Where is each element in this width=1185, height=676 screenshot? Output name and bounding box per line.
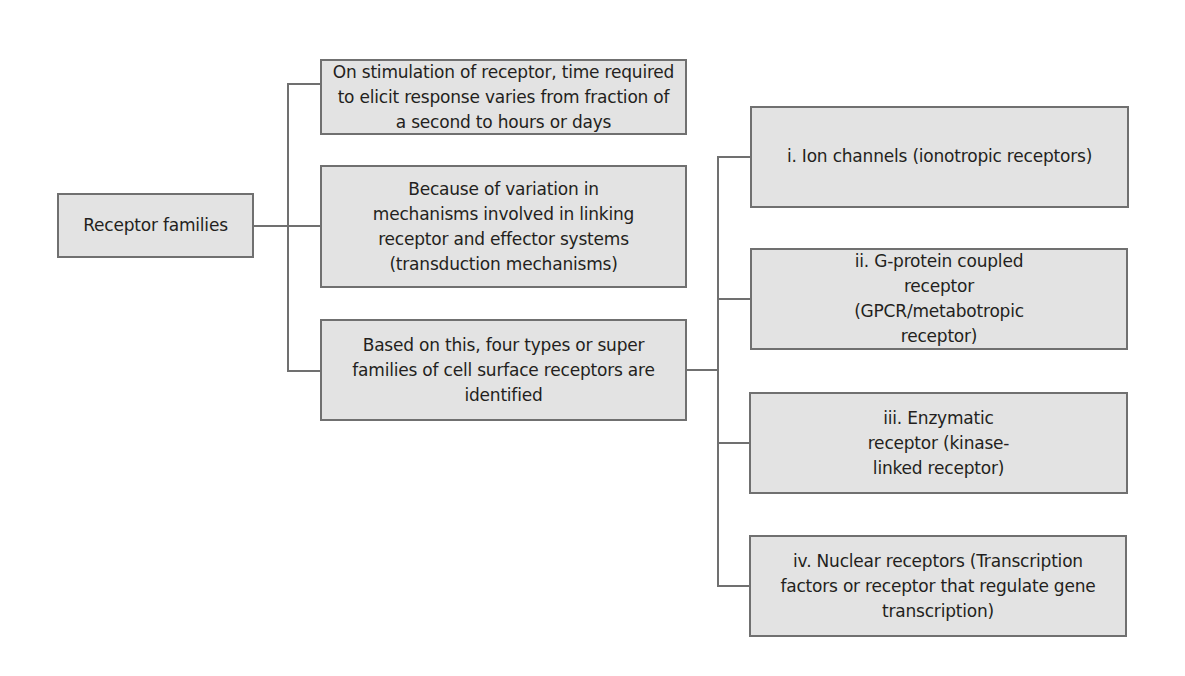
node-timing: On stimulation of receptor, time require… <box>320 59 687 135</box>
connector-left-trunk <box>287 83 289 372</box>
root-node-receptor-families: Receptor families <box>57 193 254 258</box>
connector-right-trunk <box>717 156 719 587</box>
node-timing-label: On stimulation of receptor, time require… <box>330 60 677 135</box>
node-enzymatic-label: iii. Enzymatic receptor (kinase-linked r… <box>851 406 1026 481</box>
connector-to-types <box>287 370 321 372</box>
node-gpcr-label: ii. G-protein coupled receptor (GPCR/met… <box>822 249 1056 349</box>
node-ion-channels: i. Ion channels (ionotropic receptors) <box>750 106 1129 208</box>
root-node-label: Receptor families <box>83 213 228 238</box>
node-types-label: Based on this, four types or super famil… <box>346 333 661 408</box>
node-mechanisms: Because of variation in mechanisms invol… <box>320 165 687 288</box>
node-gpcr: ii. G-protein coupled receptor (GPCR/met… <box>750 248 1128 350</box>
node-nuclear-label: iv. Nuclear receptors (Transcription fac… <box>779 549 1097 624</box>
connector-types-to-right-trunk <box>685 369 719 371</box>
node-mechanisms-label: Because of variation in mechanisms invol… <box>362 177 645 277</box>
connector-to-mechanisms <box>287 225 321 227</box>
node-enzymatic: iii. Enzymatic receptor (kinase-linked r… <box>749 392 1128 494</box>
connector-to-gpcr <box>717 298 751 300</box>
node-types: Based on this, four types or super famil… <box>320 319 687 421</box>
node-nuclear: iv. Nuclear receptors (Transcription fac… <box>749 535 1127 637</box>
connector-to-nuclear <box>717 585 750 587</box>
connector-to-ion-channels <box>717 156 751 158</box>
connector-to-timing <box>287 83 321 85</box>
connector-to-enzymatic <box>717 442 750 444</box>
connector-root-to-trunk <box>253 225 288 227</box>
node-ion-channels-label: i. Ion channels (ionotropic receptors) <box>787 144 1092 169</box>
